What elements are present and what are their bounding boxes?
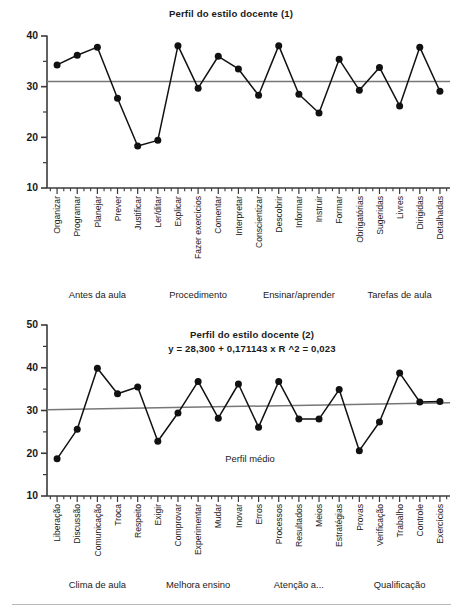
data-point	[74, 426, 81, 433]
data-point	[54, 455, 61, 462]
data-point	[235, 381, 242, 388]
data-point	[356, 87, 363, 94]
data-point	[174, 410, 181, 417]
x-tick-label: Ler/ditar	[153, 196, 163, 228]
data-point	[134, 383, 141, 390]
data-point	[376, 64, 383, 71]
group-label: Tarefas de aula	[368, 289, 433, 300]
x-tick-label: Inovar	[234, 504, 244, 528]
data-point	[316, 110, 323, 117]
figure-container: Perfil do estilo docente (1)10203040Orga…	[0, 0, 463, 612]
x-tick-label: Exercícios	[435, 504, 445, 544]
x-tick-label: Sugeridas	[375, 196, 385, 235]
y-tick-label: 40	[26, 362, 38, 373]
x-tick-label: Exigir	[153, 504, 163, 526]
data-point	[215, 415, 222, 422]
data-point	[416, 44, 423, 51]
x-tick-label: Planejar	[93, 196, 103, 228]
x-tick-label: Erros	[254, 504, 264, 525]
x-tick-label: Experimentar	[193, 504, 203, 555]
data-point	[436, 398, 443, 405]
data-point	[74, 52, 81, 59]
y-tick-label: 10	[26, 182, 38, 193]
y-tick-label: 20	[26, 132, 38, 143]
x-tick-label: Comunicação	[93, 504, 103, 557]
x-tick-label: Instruir	[314, 196, 324, 222]
data-point	[195, 378, 202, 385]
data-point	[255, 424, 262, 431]
x-tick-label: Controle	[415, 504, 425, 537]
data-point	[336, 386, 343, 393]
x-tick-label: Liberação	[52, 504, 62, 542]
data-point	[295, 416, 302, 423]
data-point	[94, 44, 101, 51]
data-point	[416, 398, 423, 405]
y-tick-label: 30	[26, 405, 38, 416]
x-tick-label: Verificação	[375, 504, 385, 546]
group-label: Procedimento	[169, 289, 227, 300]
data-point	[54, 61, 61, 68]
data-point	[154, 137, 161, 144]
x-tick-label: Provas	[355, 504, 365, 531]
data-point	[94, 365, 101, 372]
data-point	[295, 91, 302, 98]
x-tick-label: Processos	[274, 504, 284, 544]
y-tick-label: 50	[26, 319, 38, 330]
data-point	[235, 65, 242, 72]
data-point	[174, 42, 181, 49]
data-point	[134, 142, 141, 149]
x-tick-label: Justificar	[133, 196, 143, 230]
x-tick-label: Troca	[113, 504, 123, 526]
data-point	[356, 447, 363, 454]
x-tick-label: Programar	[72, 196, 82, 237]
group-label: Qualificação	[374, 579, 426, 590]
x-tick-label: Informar	[294, 196, 304, 228]
data-point	[195, 85, 202, 92]
data-point	[275, 378, 282, 385]
x-tick-label: Meios	[314, 504, 324, 527]
x-tick-label: Prever	[113, 196, 123, 221]
y-tick-label: 20	[26, 448, 38, 459]
regression-equation: y = 28,300 + 0,171143 x R ^2 = 0,023	[168, 343, 336, 354]
data-point	[396, 102, 403, 109]
data-point	[396, 369, 403, 376]
group-label: Clima de aula	[69, 579, 127, 590]
x-tick-label: Respeito	[133, 504, 143, 538]
y-tick-label: 40	[26, 30, 38, 41]
data-point	[114, 390, 121, 397]
chart-title: Perfil do estilo docente (2)	[190, 329, 314, 340]
x-tick-label: Formar	[334, 196, 344, 224]
x-tick-label: Trabalho	[395, 504, 405, 538]
chart-canvas: Perfil do estilo docente (1)10203040Orga…	[0, 0, 463, 612]
mean-line-label: Perfil médio	[225, 453, 275, 464]
data-point	[114, 95, 121, 102]
x-tick-label: Conscientizar	[254, 196, 264, 248]
x-tick-label: Comprovar	[173, 504, 183, 547]
x-tick-label: Resultados	[294, 504, 304, 547]
x-tick-label: Discussão	[72, 504, 82, 544]
group-label: Antes da aula	[69, 289, 127, 300]
y-tick-label: 10	[26, 490, 38, 501]
x-tick-label: Interpretar	[234, 196, 244, 236]
x-tick-label: Detalhadas	[435, 196, 445, 239]
x-tick-label: Fazer exercícios	[193, 196, 203, 259]
data-point	[154, 438, 161, 445]
group-label: Melhora ensino	[166, 579, 230, 590]
data-point	[255, 92, 262, 99]
x-tick-label: Obrigatórias	[355, 196, 365, 243]
x-tick-label: Estratégias	[334, 504, 344, 547]
group-label: Atenção a...	[274, 579, 324, 590]
chart-title: Perfil do estilo docente (1)	[169, 8, 293, 19]
data-point	[436, 88, 443, 95]
x-tick-label: Mudar	[213, 504, 223, 528]
x-tick-label: Descobrir	[274, 196, 284, 233]
data-point	[336, 56, 343, 63]
data-point	[275, 42, 282, 49]
group-label: Ensinar/aprender	[263, 289, 335, 300]
x-tick-label: Comentar	[213, 196, 223, 234]
x-tick-label: Livres	[395, 196, 405, 219]
x-tick-label: Organizar	[52, 196, 62, 234]
y-tick-label: 30	[26, 81, 38, 92]
figure-background	[0, 0, 463, 612]
data-point	[376, 419, 383, 426]
